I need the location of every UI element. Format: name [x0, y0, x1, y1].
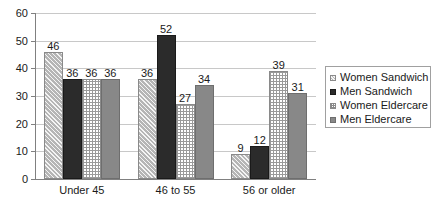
legend-item-label: Men Sandwich — [340, 86, 412, 97]
y-axis-tick-label: 60 — [16, 8, 28, 19]
y-axis-tick-label: 10 — [16, 146, 28, 157]
bar: 27 — [176, 104, 195, 179]
plot-area: 0102030405060 46363636365227349123931 — [35, 13, 316, 180]
bar-value-label: 9 — [238, 143, 244, 154]
legend-item-label: Women Eldercare — [340, 100, 428, 111]
y-axis-tick-label: 50 — [16, 35, 28, 46]
x-axis-category-label: Under 45 — [59, 185, 104, 196]
bar: 36 — [82, 79, 101, 179]
bar-value-label: 39 — [273, 60, 285, 71]
bar: 52 — [157, 35, 176, 179]
y-axis-tick-label: 30 — [16, 91, 28, 102]
bar: 31 — [288, 93, 307, 179]
grouped-bar-chart: 0102030405060 46363636365227349123931 Un… — [0, 0, 445, 217]
bar: 36 — [63, 79, 82, 179]
bar: 46 — [44, 52, 63, 179]
legend-item: Men Sandwich — [330, 85, 430, 98]
bar-value-label: 31 — [292, 82, 304, 93]
bars-layer: 46363636365227349123931 — [35, 13, 316, 180]
bar: 36 — [138, 79, 157, 179]
legend-item: Men Eldercare — [330, 113, 430, 126]
legend-item-label: Women Sandwich — [340, 72, 428, 83]
bar: 9 — [231, 154, 250, 179]
legend-item-label: Men Eldercare — [340, 114, 412, 125]
bar: 36 — [101, 79, 120, 179]
y-axis-tick-label: 40 — [16, 63, 28, 74]
legend-swatch-icon — [330, 75, 336, 81]
chart-legend: Women SandwichMen SandwichWomen Eldercar… — [325, 66, 431, 128]
legend-swatch-icon — [330, 117, 336, 123]
legend-swatch-icon — [330, 103, 336, 109]
bar-value-label: 27 — [179, 93, 191, 104]
bar-value-label: 46 — [47, 41, 59, 52]
y-axis-tick-label: 0 — [22, 174, 28, 185]
bar-value-label: 36 — [104, 68, 116, 79]
bar: 34 — [195, 85, 214, 179]
bar: 39 — [269, 71, 288, 179]
bar: 12 — [250, 146, 269, 179]
bar-value-label: 34 — [198, 74, 210, 85]
legend-item: Women Sandwich — [330, 71, 430, 84]
bar-value-label: 36 — [66, 68, 78, 79]
bar-value-label: 12 — [254, 135, 266, 146]
bar-value-label: 52 — [160, 24, 172, 35]
bar-value-label: 36 — [85, 68, 97, 79]
y-axis-tick-label: 20 — [16, 118, 28, 129]
x-axis-category-label: 56 or older — [243, 185, 296, 196]
bar-value-label: 36 — [141, 68, 153, 79]
legend-item: Women Eldercare — [330, 99, 430, 112]
legend-swatch-icon — [330, 89, 336, 95]
x-axis-category-label: 46 to 55 — [156, 185, 196, 196]
